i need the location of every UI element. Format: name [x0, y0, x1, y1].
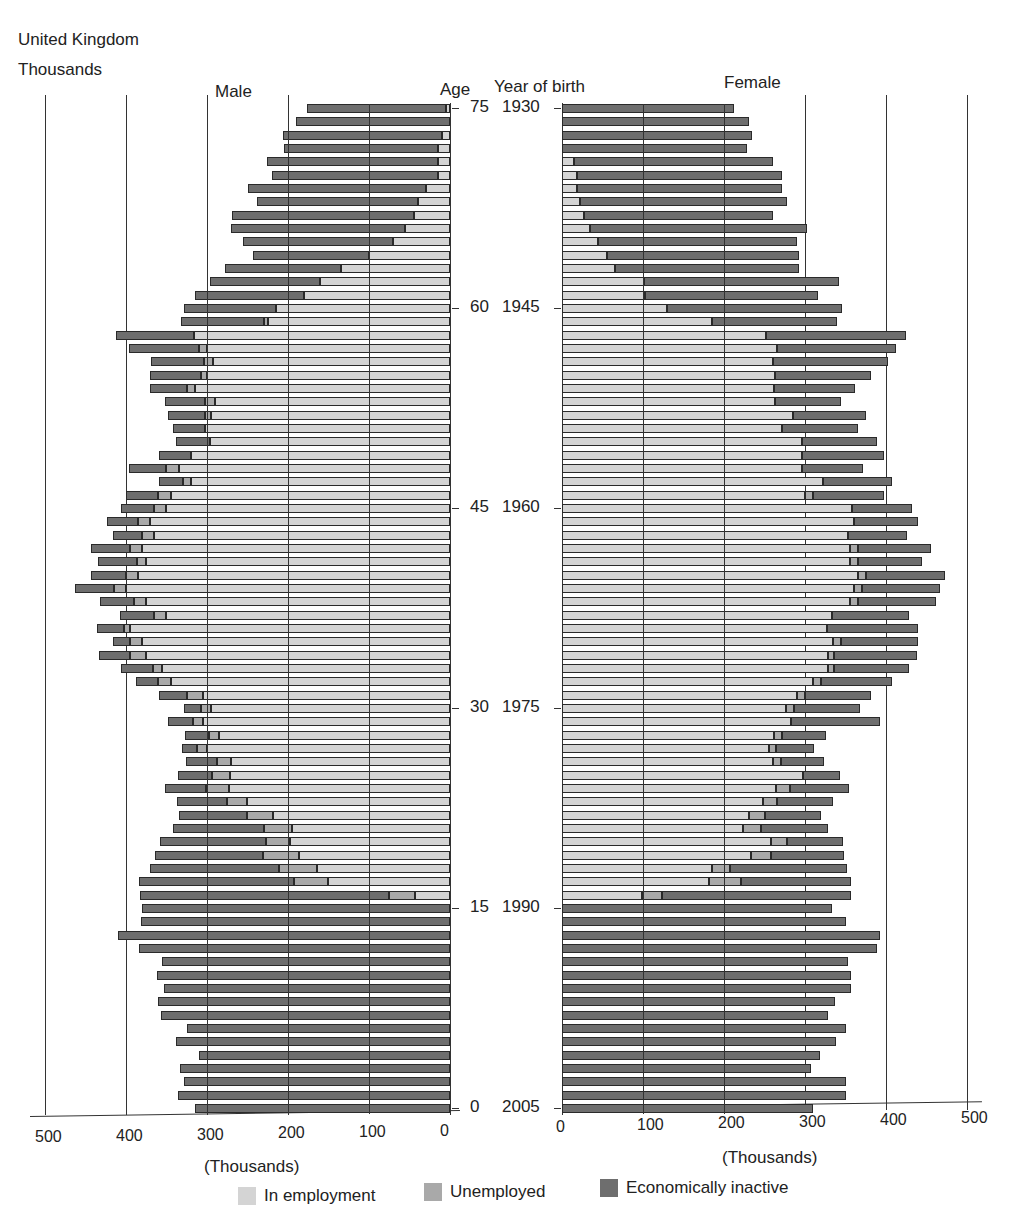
female-unemp-segment: [749, 811, 765, 820]
female-unemp-segment: [751, 851, 771, 860]
female-inact-segment: [771, 851, 844, 860]
male-inact-segment: [232, 211, 413, 220]
female-inact-segment: [662, 891, 851, 900]
male-emp-segment: [195, 384, 450, 393]
female-emp-segment: [562, 157, 574, 166]
male-inact-segment: [140, 891, 389, 900]
male-unemp-segment: [183, 477, 191, 486]
male-emp-segment: [268, 317, 450, 326]
female-inact-segment: [562, 904, 832, 913]
male-bar-age-33: [121, 664, 450, 673]
female-emp-segment: [562, 851, 751, 860]
female-x-tick-200: 200: [718, 1114, 745, 1132]
female-bar-age-44: [562, 517, 918, 526]
male-inact-segment: [272, 171, 438, 180]
female-inact-segment: [562, 1037, 836, 1046]
female-inact-segment: [562, 944, 877, 953]
male-bar-age-69: [248, 184, 451, 193]
female-emp-segment: [562, 491, 805, 500]
female-bar-age-23: [562, 797, 833, 806]
male-x-tick-500: 500: [35, 1128, 62, 1146]
female-label: Female: [724, 73, 781, 93]
female-inact-segment: [562, 104, 734, 113]
female-emp-segment: [562, 891, 642, 900]
female-emp-segment: [562, 451, 802, 460]
female-inact-segment: [794, 704, 860, 713]
male-inact-segment: [151, 357, 204, 366]
age-tick-60: [452, 308, 459, 309]
male-unemp-segment: [158, 677, 170, 686]
male-inact-segment: [184, 704, 201, 713]
female-bar-age-75: [562, 104, 734, 113]
male-inner-gridline-100: [369, 104, 370, 1114]
male-unemp-segment: [206, 784, 229, 793]
female-emp-segment: [562, 211, 584, 220]
male-unemp-segment: [204, 357, 214, 366]
age-tick-label-60: 60: [470, 297, 489, 317]
yob-tick-1960: [554, 508, 561, 509]
male-unemp-segment: [187, 384, 195, 393]
male-bar-age-25: [178, 771, 450, 780]
male-bar-age-8: [158, 997, 450, 1006]
female-bar-age-62: [562, 277, 839, 286]
legend-label-employment: In employment: [264, 1186, 376, 1206]
male-emp-segment: [247, 797, 450, 806]
male-inact-segment: [173, 824, 264, 833]
female-inact-segment: [832, 611, 909, 620]
yob-tick-1945: [554, 308, 561, 309]
female-bar-age-48: [562, 464, 863, 473]
female-bar-age-14: [562, 917, 846, 926]
male-inact-segment: [91, 571, 126, 580]
female-inact-segment: [841, 637, 918, 646]
male-emp-segment: [414, 211, 450, 220]
male-emp-segment: [146, 557, 450, 566]
male-inact-segment: [253, 251, 369, 260]
male-emp-segment: [299, 851, 450, 860]
male-bar-age-16: [140, 891, 450, 900]
female-inact-segment: [821, 677, 892, 686]
legend-item-employment: In employment: [238, 1186, 376, 1206]
female-x-tick-100: 100: [637, 1116, 664, 1134]
male-emp-segment: [438, 157, 450, 166]
female-inact-segment: [562, 144, 747, 153]
year-of-birth-axis-label: Year of birth: [494, 77, 585, 97]
female-bar-age-19: [562, 851, 844, 860]
female-inact-segment: [854, 517, 919, 526]
female-bar-age-52: [562, 411, 866, 420]
female-bar-age-38: [562, 597, 936, 606]
male-unemp-segment: [266, 837, 290, 846]
male-unemp-segment: [142, 531, 154, 540]
female-inact-segment: [562, 1104, 813, 1113]
female-unemp-segment: [743, 824, 761, 833]
female-inact-segment: [562, 917, 846, 926]
male-emp-segment: [418, 197, 450, 206]
age-tick-30: [452, 708, 459, 709]
female-bar-age-22: [562, 811, 821, 820]
male-bar-age-44: [107, 517, 450, 526]
male-emp-segment: [162, 664, 450, 673]
female-bar-age-30: [562, 704, 860, 713]
male-bar-age-63: [225, 264, 450, 273]
male-unemp-segment: [212, 771, 230, 780]
male-inact-segment: [168, 411, 204, 420]
male-bar-age-55: [150, 371, 450, 380]
male-unemp-segment: [154, 611, 166, 620]
male-emp-segment: [317, 864, 450, 873]
male-inact-segment: [187, 1024, 450, 1033]
male-inact-segment: [158, 997, 450, 1006]
yob-tick-label-2005: 2005: [502, 1097, 540, 1117]
male-x-tick-300: 300: [197, 1126, 224, 1144]
male-inact-segment: [141, 917, 450, 926]
female-emp-segment: [562, 651, 828, 660]
male-inact-segment: [118, 931, 450, 940]
female-inact-segment: [858, 544, 931, 553]
age-tick-0: [452, 1108, 459, 1109]
female-inact-segment: [577, 171, 783, 180]
female-emp-segment: [562, 864, 712, 873]
male-bar-age-14: [141, 917, 450, 926]
male-inact-segment: [99, 651, 130, 660]
male-unemp-segment: [187, 691, 203, 700]
female-emp-segment: [562, 437, 802, 446]
female-emp-segment: [562, 331, 766, 340]
male-bar-age-66: [231, 224, 450, 233]
